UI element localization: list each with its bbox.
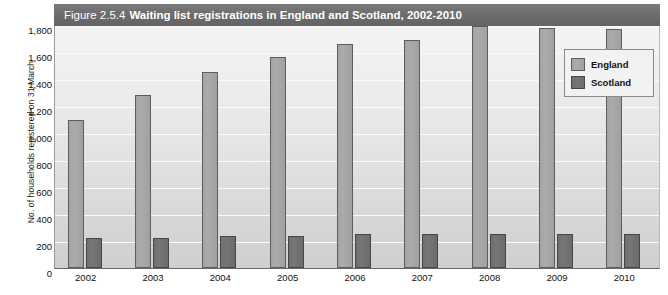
bar-scotland-2006 xyxy=(355,234,371,268)
bar-scotland-2002 xyxy=(86,238,102,268)
y-axis-tick-label: 1,800 xyxy=(8,25,52,36)
legend-swatch-icon xyxy=(571,76,585,89)
gridline xyxy=(55,26,659,27)
y-axis-tick-label: 1,200 xyxy=(8,106,52,117)
chart-legend: EnglandScotland xyxy=(564,49,654,97)
y-axis-tick-label: 1,400 xyxy=(8,79,52,90)
x-axis-tick-label: 2006 xyxy=(344,272,365,283)
bar-england-2005 xyxy=(270,57,286,268)
y-axis-tick-label: 0 xyxy=(8,268,52,279)
legend-item-scotland: Scotland xyxy=(571,73,647,91)
x-axis-tick-label: 2005 xyxy=(277,272,298,283)
bar-scotland-2003 xyxy=(153,238,169,268)
x-axis-tick-label: 2008 xyxy=(479,272,500,283)
legend-label: England xyxy=(591,59,628,70)
y-axis-tick-label: 400 xyxy=(8,214,52,225)
x-axis-tick-labels: 200220032004200520062007200820092010 xyxy=(54,272,660,290)
y-axis-tick-label: 1,000 xyxy=(8,133,52,144)
y-axis-tick-label: 800 xyxy=(8,160,52,171)
bar-england-2002 xyxy=(68,120,84,269)
bar-scotland-2009 xyxy=(557,234,573,268)
bar-england-2006 xyxy=(337,44,353,268)
bar-england-2009 xyxy=(539,28,555,268)
figure-title-bar: Figure 2.5.4 Waiting list registrations … xyxy=(54,4,660,26)
bar-scotland-2008 xyxy=(490,234,506,268)
x-axis-tick-label: 2003 xyxy=(142,272,163,283)
y-axis-tick-label: 1,600 xyxy=(8,52,52,63)
y-axis-tick-label: 200 xyxy=(8,241,52,252)
x-axis-tick-label: 2009 xyxy=(546,272,567,283)
figure-title-text: Waiting list registrations in England an… xyxy=(129,9,462,21)
x-axis-tick-label: 2010 xyxy=(614,272,635,283)
figure-number: Figure 2.5.4 xyxy=(64,9,125,21)
bar-scotland-2007 xyxy=(422,234,438,268)
y-axis-tick-label: 600 xyxy=(8,187,52,198)
bar-scotland-2005 xyxy=(288,236,304,268)
bar-scotland-2010 xyxy=(624,234,640,268)
x-axis-tick-label: 2007 xyxy=(412,272,433,283)
figure-container: No. of households registered on 31 March… xyxy=(0,0,668,295)
legend-label: Scotland xyxy=(591,77,631,88)
legend-swatch-icon xyxy=(571,58,585,71)
bar-scotland-2004 xyxy=(220,236,236,268)
y-axis-tick-labels: 02004006008001,0001,2001,4001,6001,800 xyxy=(8,28,52,272)
legend-item-england: England xyxy=(571,55,647,73)
bar-england-2007 xyxy=(404,40,420,268)
x-axis-tick-label: 2004 xyxy=(210,272,231,283)
bar-england-2003 xyxy=(135,95,151,268)
x-axis-tick-label: 2002 xyxy=(75,272,96,283)
bar-england-2008 xyxy=(472,26,488,268)
bar-england-2004 xyxy=(202,72,218,268)
